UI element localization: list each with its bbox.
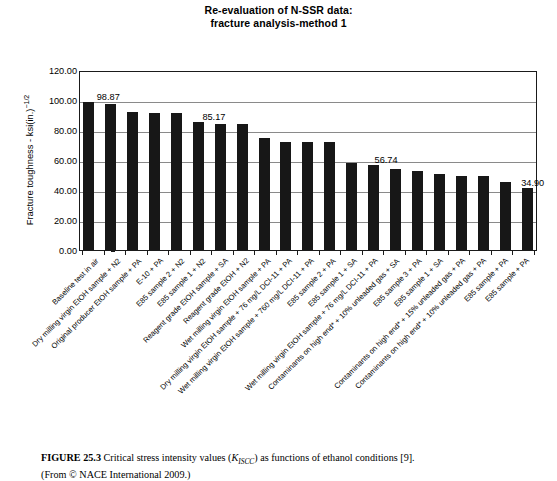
bar[interactable] (215, 124, 226, 250)
x-tick-mark (534, 251, 535, 255)
bar[interactable] (368, 165, 379, 250)
figure-number: FIGURE 25.3 (41, 452, 101, 463)
x-tick-mark (211, 251, 212, 255)
x-category-label: Contaminants on high end* + 10% unleaded… (267, 257, 401, 391)
x-tick-mark (168, 251, 169, 255)
data-label-85.17: 85.17 (202, 112, 225, 122)
chart-title-line-1: Re-evaluation of N-SSR data: (0, 4, 557, 17)
x-category-label: E85 sample 1 + N2 (156, 257, 207, 308)
bar[interactable] (478, 176, 489, 250)
x-category-label: Contaminants on high end* + 15% unleaded… (333, 257, 467, 391)
x-axis-ticks (79, 251, 537, 256)
chart-title: Re-evaluation of N-SSR data: fracture an… (0, 4, 557, 30)
bar[interactable] (390, 169, 401, 250)
x-tick-mark (82, 251, 83, 255)
x-category-label: E85 sample 2 + PA (286, 257, 337, 308)
bar[interactable] (237, 124, 248, 250)
bar[interactable] (171, 113, 182, 250)
x-category-label: E85 sample + PA (463, 257, 510, 304)
x-category-label: Dry milling virgin EtOH sample + 76 mg/L… (159, 257, 294, 392)
y-tick-label-60.00: 60.00 (54, 156, 77, 166)
bar[interactable] (280, 142, 291, 250)
x-category-label: E85 sample 1 + SA (393, 257, 445, 309)
bar[interactable] (434, 174, 445, 251)
x-category-label: E85 sample 1 + SA (307, 257, 359, 309)
x-tick-mark (512, 251, 513, 255)
bar[interactable] (83, 102, 94, 250)
y-axis-title-exponent: −1/2 (23, 95, 30, 109)
x-tick-mark (190, 251, 191, 255)
y-tick-label-100.00: 100.00 (49, 96, 77, 106)
x-tick-mark (362, 251, 363, 255)
y-axis-title: Fracture toughness - ksi(in.)−1/2 (22, 62, 36, 258)
caption-source: (From © NACE International 2009.) (41, 469, 541, 481)
y-tick-label-120.00: 120.00 (49, 66, 77, 76)
bar[interactable] (149, 113, 160, 250)
x-tick-mark (469, 251, 470, 255)
x-category-label: E85 sample + PA (484, 257, 531, 304)
x-tick-mark (426, 251, 427, 255)
x-category-label: E85 sample 2 + N2 (135, 257, 186, 308)
figure-page: Re-evaluation of N-SSR data: fracture an… (0, 0, 557, 481)
figure-caption: FIGURE 25.3 Critical stress intensity va… (41, 452, 541, 481)
x-category-label: Wet milling virgin EtOH sample + 760 mg/… (177, 257, 316, 396)
bar[interactable] (522, 188, 533, 250)
x-tick-mark (340, 251, 341, 255)
chart-title-line-2: fracture analysis-method 1 (0, 17, 557, 30)
x-tick-mark (276, 251, 277, 255)
bar[interactable] (324, 142, 335, 250)
data-label-56.74: 56.74 (375, 155, 398, 165)
y-axis-title-text: Fracture toughness - ksi(in.) (24, 109, 35, 226)
bar[interactable] (302, 142, 313, 250)
y-tick-label-80.00: 80.00 (54, 126, 77, 136)
x-tick-mark (491, 251, 492, 255)
bar[interactable] (127, 112, 138, 250)
data-label-98.87: 98.87 (97, 92, 120, 102)
x-tick-mark (104, 251, 105, 255)
x-category-label: Reagent grade EtOH + N2 (182, 257, 251, 326)
x-tick-mark (405, 251, 406, 255)
x-tick-mark (233, 251, 234, 255)
x-tick-mark (297, 251, 298, 255)
bar[interactable] (259, 138, 270, 251)
x-tick-mark (125, 251, 126, 255)
data-label-34.90: 34.90 (521, 178, 544, 188)
x-category-label: Wet milling virgin EtOH sample + 76 mg/L… (244, 257, 380, 393)
y-tick-label-0.00: 0.00 (59, 246, 77, 256)
x-category-label: E-10 + PA (135, 257, 165, 287)
bar[interactable] (412, 171, 423, 250)
bar-series (80, 72, 536, 250)
caption-text-2: ) as functions of ethanol conditions [9]… (254, 452, 414, 463)
bar[interactable] (193, 122, 204, 250)
bar[interactable] (456, 176, 467, 250)
x-tick-mark (319, 251, 320, 255)
x-tick-mark (383, 251, 384, 255)
bar[interactable] (105, 104, 116, 250)
caption-text-1: Critical stress intensity values ( (104, 452, 232, 463)
x-category-label: Contaminants on high end* + 10% unleaded… (354, 257, 488, 391)
bar[interactable] (346, 163, 357, 250)
caption-symbol-subscript: ISCC (238, 457, 254, 466)
x-tick-mark (147, 251, 148, 255)
y-tick-label-40.00: 40.00 (54, 186, 77, 196)
y-axis-tick-labels: 0.0020.0040.0060.0080.00100.00120.00 (36, 0, 77, 481)
bar[interactable] (500, 182, 511, 250)
y-tick-label-20.00: 20.00 (54, 216, 77, 226)
x-category-label: Wet milling virgin EtOH sample + PA (180, 257, 272, 349)
x-tick-mark (254, 251, 255, 255)
x-tick-mark (448, 251, 449, 255)
x-category-label: Reagent grade EtOH sample + SA (142, 257, 230, 345)
plot-area (79, 71, 537, 251)
x-category-label: E85 sample 3 + PA (372, 257, 423, 308)
